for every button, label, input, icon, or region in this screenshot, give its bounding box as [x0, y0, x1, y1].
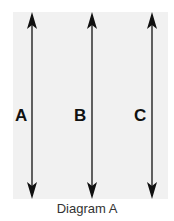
label-b: B: [74, 106, 86, 126]
arrow-a: [27, 12, 37, 199]
label-c: C: [134, 106, 146, 126]
diagram-caption: Diagram A: [0, 201, 174, 216]
arrow-c: [147, 12, 157, 199]
arrow-b: [87, 12, 97, 199]
label-a: A: [15, 106, 27, 126]
